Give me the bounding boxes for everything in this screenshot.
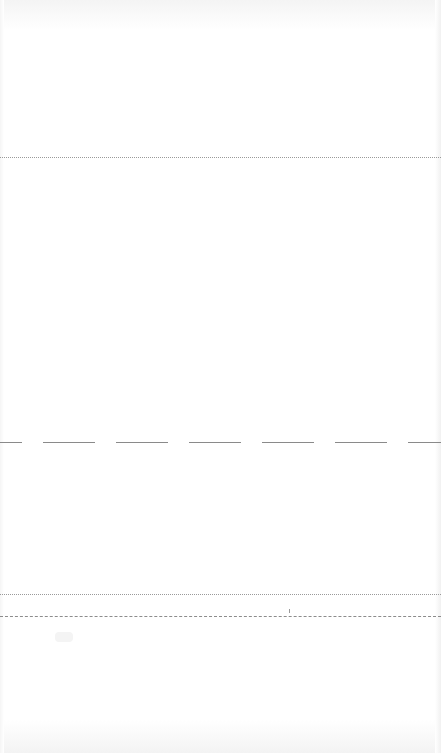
- blank-page: [0, 0, 441, 753]
- left-edge-shadow: [0, 0, 4, 753]
- lower-divider: [0, 594, 441, 595]
- bottom-divider: [0, 616, 441, 617]
- faded-icon: [55, 632, 73, 642]
- top-divider: [0, 157, 441, 158]
- tick-marker-icon: [289, 609, 290, 613]
- right-edge-shadow: [435, 0, 441, 753]
- middle-divider: [0, 442, 441, 443]
